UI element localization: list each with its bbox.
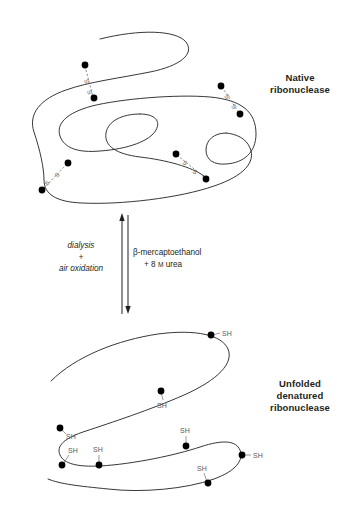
- figure-canvas: S S S S S S S S: [0, 0, 346, 525]
- reverse-reaction-label: β-mercaptoethanol + 8 M urea: [133, 247, 245, 270]
- sh-label: SH: [197, 465, 207, 472]
- ss-label-a: S: [53, 171, 61, 179]
- reaction-arrows: [119, 213, 130, 314]
- thiol-group-7: SH: [239, 452, 263, 459]
- disulfide-bond-2: S S: [218, 83, 244, 118]
- reverse-label-line1: β-mercaptoethanol: [133, 247, 245, 259]
- sh-label: SH: [157, 402, 167, 409]
- cysteine-dot: [91, 95, 98, 102]
- native-state-label: Native ribonuclease: [258, 72, 342, 96]
- thiol-group-3: SH: [57, 425, 76, 440]
- disulfide-bond-4: S S: [173, 151, 210, 183]
- thiol-group-1: SH: [208, 330, 232, 338]
- ss-label-b: S: [86, 89, 94, 95]
- sh-label: SH: [222, 330, 232, 337]
- unfolded-label-line3: ribonuclease: [256, 402, 344, 414]
- cysteine-dot: [237, 111, 244, 118]
- cysteine-dot: [65, 160, 72, 167]
- cysteine-dot: [239, 452, 246, 459]
- cysteine-dot: [218, 83, 225, 90]
- forward-label-line3: air oxidation: [42, 263, 120, 275]
- cysteine-dot: [208, 332, 215, 339]
- arrow-up-forward: [119, 213, 124, 314]
- cysteine-dot: [203, 176, 210, 183]
- disulfide-bond-1: S S: [82, 62, 98, 102]
- cysteine-dot: [205, 480, 212, 487]
- ss-link-line: [177, 155, 205, 178]
- urea-suffix: urea: [163, 260, 182, 269]
- thiol-group-5: SH: [93, 446, 103, 468]
- thiol-groups: SH SH SH SH SH: [57, 330, 263, 486]
- sh-label: SH: [253, 452, 263, 459]
- cysteine-dot: [39, 187, 46, 194]
- arrow-down-head: [125, 306, 130, 314]
- arrow-down-reverse: [125, 215, 130, 314]
- unfolded-label-line1: Unfolded: [256, 378, 344, 390]
- cysteine-dot: [173, 151, 180, 158]
- cysteine-dot: [59, 462, 66, 469]
- native-structure: [32, 32, 256, 203]
- sh-label: SH: [180, 427, 190, 434]
- sh-label: SH: [93, 446, 103, 453]
- urea-prefix: + 8: [144, 260, 158, 269]
- native-label-line2: ribonuclease: [258, 84, 342, 96]
- unfolded-state-label: Unfolded denatured ribonuclease: [256, 378, 344, 414]
- forward-label-line2: +: [42, 252, 120, 264]
- disulfide-bonds: S S S S S S S S: [39, 62, 244, 194]
- ss-label-b: S: [43, 179, 51, 187]
- forward-reaction-label: dialysis + air oxidation: [42, 240, 120, 275]
- ss-link-line: [222, 87, 239, 113]
- cysteine-dot: [158, 388, 165, 395]
- unfolded-structure: [48, 332, 241, 490]
- thiol-group-2: SH: [157, 388, 167, 409]
- sh-label: SH: [68, 447, 78, 454]
- ss-label-b: S: [191, 168, 199, 176]
- forward-label-line1: dialysis: [42, 240, 120, 252]
- cysteine-dot: [82, 62, 89, 69]
- native-chain-path-inner: [59, 96, 256, 164]
- unfolded-label-line2: denatured: [256, 390, 344, 402]
- ss-label-a: S: [181, 159, 189, 167]
- cysteine-dot: [183, 443, 190, 450]
- reverse-label-line2: + 8 M urea: [133, 259, 245, 271]
- native-chain-path-tail: [106, 114, 204, 176]
- native-chain-path: [32, 32, 251, 203]
- sh-label: SH: [66, 433, 76, 440]
- cysteine-dot: [57, 425, 64, 432]
- native-label-line1: Native: [258, 72, 342, 84]
- unfolded-chain-path: [48, 332, 241, 490]
- thiol-group-6: SH: [180, 427, 190, 449]
- cysteine-dot: [96, 462, 103, 469]
- ss-label-b: S: [230, 103, 238, 110]
- arrow-up-head: [119, 213, 124, 221]
